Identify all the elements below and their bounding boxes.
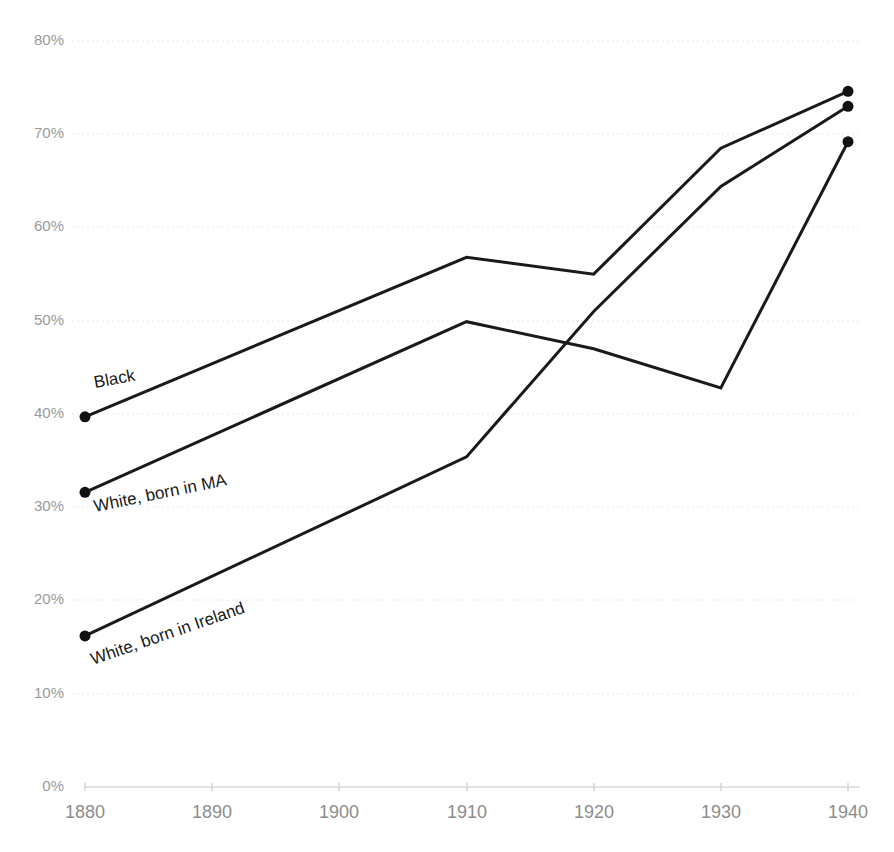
y-tick-label-0: 0%	[42, 777, 64, 794]
x-tick-label-1900: 1900	[319, 802, 359, 822]
series-label-black: Black	[92, 366, 137, 392]
endpoint-dot[interactable]	[843, 86, 854, 97]
series-line-black[interactable]	[85, 91, 848, 416]
x-tick-label-1920: 1920	[574, 802, 614, 822]
series-lines	[85, 91, 848, 636]
endpoint-dot[interactable]	[843, 101, 854, 112]
chart-canvas: 80% 70% 60% 50% 40% 30% 20% 10% 0% 1880 …	[0, 0, 894, 852]
y-tick-label-50: 50%	[34, 311, 64, 328]
x-tick-label-1940: 1940	[828, 802, 868, 822]
x-tick-label-1910: 1910	[447, 802, 487, 822]
y-tick-label-20: 20%	[34, 590, 64, 607]
endpoint-dot[interactable]	[843, 136, 854, 147]
series-endpoint-markers	[80, 86, 854, 642]
endpoint-dot[interactable]	[80, 630, 91, 641]
x-tick-label-1930: 1930	[701, 802, 741, 822]
x-axis	[85, 783, 860, 791]
y-tick-label-40: 40%	[34, 404, 64, 421]
line-chart: 80% 70% 60% 50% 40% 30% 20% 10% 0% 1880 …	[0, 0, 894, 852]
endpoint-dot[interactable]	[80, 411, 91, 422]
series-label-white-born-in-ma: White, born in MA	[92, 470, 229, 516]
y-tick-label-10: 10%	[34, 684, 64, 701]
endpoint-dot[interactable]	[80, 487, 91, 498]
y-tick-label-30: 30%	[34, 497, 64, 514]
x-axis-tick-labels: 1880 1890 1900 1910 1920 1930 1940	[65, 802, 868, 822]
y-tick-label-70: 70%	[34, 124, 64, 141]
series-line-white-born-in-ireland[interactable]	[85, 106, 848, 636]
series-label-white-born-in-ireland: White, born in Ireland	[88, 598, 247, 669]
series-line-white-born-in-ma[interactable]	[85, 142, 848, 493]
y-tick-label-80: 80%	[34, 31, 64, 48]
y-axis-tick-labels: 80% 70% 60% 50% 40% 30% 20% 10% 0%	[34, 31, 64, 794]
x-tick-label-1880: 1880	[65, 802, 105, 822]
y-tick-label-60: 60%	[34, 217, 64, 234]
x-tick-label-1890: 1890	[192, 802, 232, 822]
